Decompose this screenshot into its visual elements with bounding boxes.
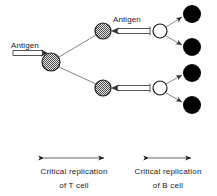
antigen-label-upper: Antigen — [113, 15, 141, 24]
t-cell-upper-node — [95, 23, 111, 39]
b-cell-upper-node — [153, 24, 167, 38]
antigen-label-left: Antigen — [11, 41, 39, 50]
b-cell-lower-node — [153, 81, 167, 95]
plasma-branch-arrows-lower — [166, 75, 182, 102]
plasma-cell-4-node — [183, 96, 201, 114]
t-cell-branch-lines — [59, 35, 96, 84]
plasma-cell-1-node — [183, 5, 201, 23]
plasma-branch-arrows-upper — [166, 17, 182, 45]
caption-t-cell-line1: Critical replication — [24, 166, 124, 177]
plasma-cell-2-node — [183, 38, 201, 56]
plasma-cell-3-node — [183, 64, 201, 82]
antigen-connector-lower — [111, 84, 150, 93]
t-cell-precursor-node — [42, 53, 60, 71]
caption-b-cell-line1: Critical replication — [120, 166, 216, 177]
antigen-input-connector-left — [13, 50, 48, 57]
antigen-replication-diagram: Antigen Antigen Critical replication of … — [0, 0, 217, 196]
caption-t-cell-line2: of T cell — [24, 180, 124, 191]
t-cell-lower-node — [95, 80, 111, 96]
caption-b-cell-line2: of B cell — [120, 180, 216, 191]
antigen-connector-upper — [111, 27, 150, 36]
